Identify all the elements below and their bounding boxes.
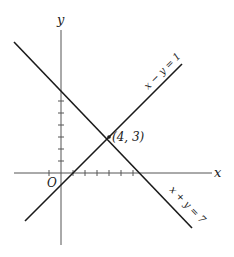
y-axis-label: y bbox=[56, 12, 65, 27]
intersection-point bbox=[107, 135, 111, 139]
origin-label: O bbox=[47, 176, 57, 190]
line-label-x-plus-y: x + y = 7 bbox=[168, 184, 209, 226]
coordinate-diagram: y x O (4, 3) x − y = 1 x + y = 7 bbox=[0, 0, 234, 257]
line-label-x-minus-y: x − y = 1 bbox=[142, 50, 183, 91]
x-axis-label: x bbox=[214, 165, 222, 180]
line-x-minus-y-eq-1 bbox=[25, 64, 182, 221]
intersection-label: (4, 3) bbox=[112, 130, 145, 144]
